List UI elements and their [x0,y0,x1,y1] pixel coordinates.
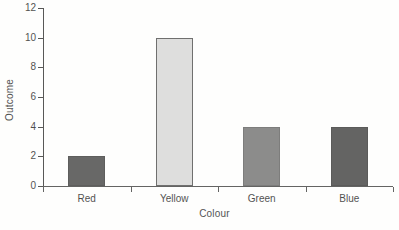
x-axis-title: Colour [0,208,399,219]
y-axis-tick-label: 10 [6,33,36,43]
y-axis-tick-label: 4 [6,122,36,132]
bar-blue [331,127,368,186]
bar-yellow [156,38,193,186]
y-axis-tick-label: 6 [6,92,36,102]
y-axis-tick-label: 0 [6,181,36,191]
y-axis-tick-label: 12 [6,3,36,13]
x-axis-category-label: Green [218,193,306,205]
x-axis-tick [218,187,219,192]
x-axis-category-label: Red [43,193,131,205]
bar-red [68,156,105,186]
bar-chart: Outcome 024681012 RedYellowGreenBlue Col… [0,0,399,230]
x-axis-tick [306,187,307,192]
x-axis-category-label: Blue [306,193,394,205]
y-axis-tick-label: 2 [6,151,36,161]
y-axis-tick-label: 8 [6,62,36,72]
x-axis-tick [393,187,394,192]
x-axis-tick [43,187,44,192]
bar-green [243,127,280,186]
plot-area [43,8,393,186]
x-axis-tick [131,187,132,192]
x-axis-category-label: Yellow [131,193,219,205]
